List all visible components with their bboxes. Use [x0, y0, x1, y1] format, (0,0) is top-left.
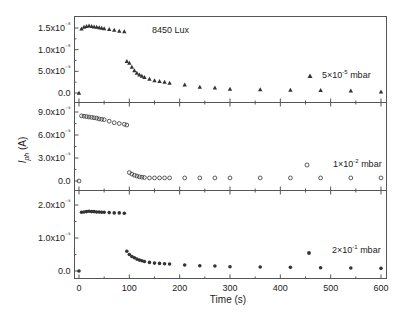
star-marker [107, 211, 111, 215]
x-tick-label: 300 [222, 283, 237, 293]
legend-label-1: 5×10 [322, 70, 342, 80]
star-marker [183, 263, 187, 267]
star-marker [125, 249, 129, 253]
star-marker [168, 262, 172, 266]
x-tick-label: 600 [373, 283, 388, 293]
star-marker [123, 211, 127, 215]
legend-label-3: 2×10 [332, 245, 352, 255]
star-marker [213, 264, 217, 268]
star-marker [117, 211, 121, 215]
star-marker [319, 266, 323, 270]
y-tick-label: 0.0 [58, 88, 71, 98]
star-marker [289, 266, 293, 270]
star-marker [102, 210, 106, 214]
star-marker-icon [307, 251, 311, 255]
legend-label-2: 1×10 [333, 159, 353, 169]
star-marker [258, 265, 262, 269]
x-axis-title: Time (s) [210, 294, 246, 305]
star-marker [77, 269, 81, 273]
star-marker [153, 261, 157, 265]
x-tick-label: 500 [323, 283, 338, 293]
x-tick-label: 200 [172, 283, 187, 293]
photocurrent-chart: 0.05.0x10⁻⁹1.0x10⁻⁸1.5x10⁻⁸0.03.0x10⁻⁹6.… [0, 0, 408, 321]
star-marker [379, 267, 383, 271]
x-tick-label: 400 [273, 283, 288, 293]
y-tick-label: 0.0 [58, 266, 71, 276]
star-marker [158, 262, 162, 266]
star-marker [143, 260, 147, 264]
y-tick-label: 0.0 [58, 176, 71, 186]
star-marker [198, 264, 202, 268]
x-tick-label: 0 [76, 283, 81, 293]
star-marker [163, 262, 167, 266]
star-marker [349, 266, 353, 270]
star-marker [148, 261, 152, 265]
illuminance-annotation: 8450 Lux [152, 25, 190, 35]
x-tick-label: 100 [122, 283, 137, 293]
star-marker [112, 211, 116, 215]
star-marker [228, 265, 232, 269]
